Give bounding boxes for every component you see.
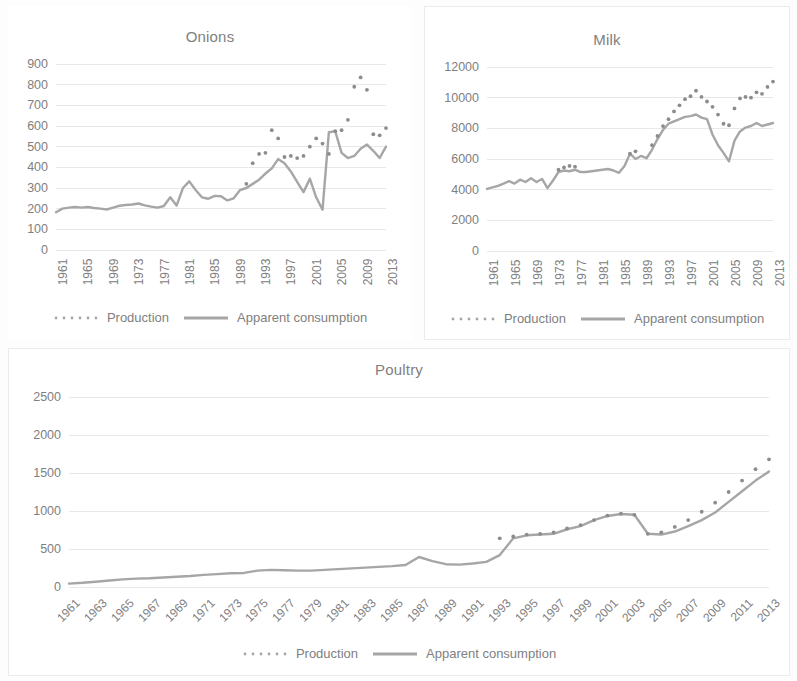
x-tick-label: 2005 <box>335 259 349 286</box>
legend-label-production: Production <box>296 647 358 660</box>
x-axis-labels-milk: 1961196519691973197719811985198919931997… <box>487 257 773 317</box>
x-tick-label: 1981 <box>597 260 611 287</box>
solid-line-icon <box>580 314 626 324</box>
solid-line-icon <box>372 649 418 659</box>
x-tick-label: 1993 <box>259 259 273 286</box>
legend-item-consumption: Apparent consumption <box>183 311 367 324</box>
x-tick-label: 2009 <box>751 260 765 287</box>
y-axis-labels-onions: 0100200300400500600700800900 <box>10 64 48 250</box>
x-tick-label: 1967 <box>130 596 164 630</box>
y-tick-label: 0 <box>41 243 48 257</box>
legend-item-production: Production <box>450 312 566 325</box>
y-tick-label: 200 <box>27 202 48 216</box>
y-axis-labels-milk: 020004000600080001000012000 <box>427 67 479 251</box>
dotted-line-icon <box>450 314 496 324</box>
y-tick-label: 4000 <box>451 183 479 197</box>
legend-label-production: Production <box>107 311 169 324</box>
solid-line-icon <box>183 313 229 323</box>
legend-label-production: Production <box>504 312 566 325</box>
legend-milk: Production Apparent consumption <box>425 312 789 325</box>
y-tick-label: 900 <box>27 57 48 71</box>
y-tick-label: 1500 <box>33 466 61 480</box>
dotted-line-icon <box>242 649 288 659</box>
chart-panel-poultry: Poultry 05001000150020002500 19611963196… <box>8 348 790 676</box>
x-axis-labels-onions: 1961196519691973197719811985198919931997… <box>56 256 386 316</box>
x-tick-label: 1985 <box>372 596 406 630</box>
y-tick-label: 6000 <box>451 152 479 166</box>
y-axis-labels-poultry: 05001000150020002500 <box>11 397 61 587</box>
y-tick-label: 600 <box>27 119 48 133</box>
plot-area-poultry <box>69 397 769 587</box>
x-tick-label: 1997 <box>284 259 298 286</box>
x-tick-label: 1969 <box>157 596 191 630</box>
y-tick-label: 2000 <box>33 428 61 442</box>
x-tick-label: 1989 <box>641 260 655 287</box>
x-tick-label: 1997 <box>685 260 699 287</box>
x-tick-label: 2013 <box>773 260 787 287</box>
x-tick-label: 2009 <box>361 259 375 286</box>
x-tick-label: 1989 <box>426 596 460 630</box>
x-tick-label: 1965 <box>81 259 95 286</box>
x-tick-label: 1993 <box>480 596 514 630</box>
plot-area-onions <box>56 64 386 250</box>
y-tick-label: 12000 <box>444 60 479 74</box>
y-tick-label: 0 <box>54 580 61 594</box>
legend-item-production: Production <box>53 311 169 324</box>
x-tick-label: 1973 <box>132 259 146 286</box>
x-tick-label: 1983 <box>345 596 379 630</box>
legend-item-consumption: Apparent consumption <box>372 647 556 660</box>
x-tick-label: 2011 <box>722 596 756 630</box>
legend-label-consumption: Apparent consumption <box>634 312 764 325</box>
x-tick-label: 1965 <box>509 260 523 287</box>
legend-label-consumption: Apparent consumption <box>237 311 367 324</box>
x-tick-label: 1987 <box>399 596 433 630</box>
dotted-line-icon <box>53 313 99 323</box>
x-tick-label: 1993 <box>663 260 677 287</box>
x-tick-label: 2003 <box>614 596 648 630</box>
x-tick-label: 2005 <box>641 596 675 630</box>
x-tick-label: 1973 <box>210 596 244 630</box>
x-tick-label: 1977 <box>264 596 298 630</box>
y-tick-label: 8000 <box>451 121 479 135</box>
x-tick-label: 2001 <box>310 259 324 286</box>
x-tick-label: 1997 <box>534 596 568 630</box>
legend-poultry: Production Apparent consumption <box>9 647 789 660</box>
x-tick-label: 1981 <box>183 259 197 286</box>
x-tick-label: 1995 <box>507 596 541 630</box>
y-tick-label: 800 <box>27 78 48 92</box>
x-tick-label: 1985 <box>208 259 222 286</box>
y-tick-label: 700 <box>27 98 48 112</box>
x-tick-label: 1991 <box>453 596 487 630</box>
x-tick-label: 2013 <box>386 259 400 286</box>
y-tick-label: 400 <box>27 160 48 174</box>
y-tick-label: 1000 <box>33 504 61 518</box>
x-tick-label: 1977 <box>158 259 172 286</box>
y-tick-label: 500 <box>40 542 61 556</box>
plot-area-milk <box>487 67 773 251</box>
y-tick-label: 10000 <box>444 91 479 105</box>
chart-title-milk: Milk <box>425 31 789 48</box>
x-tick-label: 1985 <box>619 260 633 287</box>
x-tick-label: 1975 <box>237 596 271 630</box>
x-tick-label: 2013 <box>749 596 783 630</box>
x-tick-label: 1979 <box>291 596 325 630</box>
x-tick-label: 2001 <box>587 596 621 630</box>
chart-panel-milk: Milk 020004000600080001000012000 1961196… <box>424 6 790 340</box>
plot-svg-milk <box>487 67 773 251</box>
y-tick-label: 0 <box>472 244 479 258</box>
plot-svg-poultry <box>69 397 769 587</box>
x-tick-label: 1961 <box>487 260 501 287</box>
legend-item-consumption: Apparent consumption <box>580 312 764 325</box>
plot-svg-onions <box>56 64 386 250</box>
y-tick-label: 2500 <box>33 390 61 404</box>
legend-onions: Production Apparent consumption <box>8 311 412 324</box>
y-tick-label: 500 <box>27 140 48 154</box>
x-tick-label: 1961 <box>49 596 83 630</box>
x-tick-label: 2005 <box>729 260 743 287</box>
legend-label-consumption: Apparent consumption <box>426 647 556 660</box>
x-tick-label: 1977 <box>575 260 589 287</box>
x-tick-label: 1981 <box>318 596 352 630</box>
y-tick-label: 300 <box>27 181 48 195</box>
x-tick-label: 2007 <box>668 596 702 630</box>
x-tick-label: 1961 <box>56 259 70 286</box>
